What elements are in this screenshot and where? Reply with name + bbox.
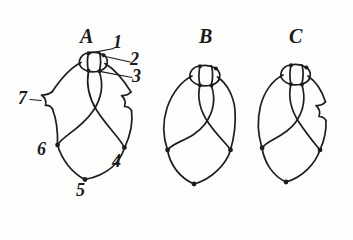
- panel-a-top-loop-bottom: [80, 65, 107, 72]
- panel-c-node-bottom: [284, 180, 289, 185]
- panel-b-node-mid-right: [209, 84, 213, 88]
- panel-c-loop-chord-left: [290, 65, 291, 84]
- panel-b-node-bottom-right: [228, 148, 233, 153]
- panel-a-node-6: [55, 143, 60, 148]
- panel-b-loop-chord-right: [211, 66, 212, 86]
- panel-a-node-4: [122, 145, 127, 150]
- panel-c-node-mid-left: [289, 82, 293, 86]
- panel-c-node-bottom-left: [260, 146, 265, 151]
- panel-b-strand-right-to-left: [168, 86, 214, 150]
- panel-letter-c: C: [289, 26, 302, 46]
- panel-c-node-bottom-right: [318, 148, 323, 153]
- panel-a-loop-chord-left: [87, 53, 88, 70]
- panel-b-outer-right: [218, 77, 236, 150]
- panel-b-lower-left-arc: [168, 150, 195, 184]
- panel-b-top-loop-bottom: [190, 78, 219, 86]
- panel-b-node-bottom-left: [165, 148, 170, 153]
- panel-a-left-notch: [42, 92, 53, 109]
- callout-label-5: 5: [76, 181, 85, 199]
- panel-c-strand-left-to-right: [290, 84, 320, 150]
- panel-b-node-bottom: [192, 182, 197, 187]
- callout-label-6: 6: [37, 140, 46, 158]
- callout-leader-2: [105, 57, 130, 63]
- panel-c-outer-right-lower: [320, 121, 326, 151]
- panel-b-node-mid-left: [198, 83, 202, 87]
- panel-a-lower-left-arc: [58, 145, 86, 180]
- panel-a-outer-left-upper: [52, 63, 81, 93]
- panel-c-drawing: [258, 63, 326, 184]
- panel-c-node-top-left: [289, 63, 293, 67]
- panel-b-top-loop-cap: [200, 65, 217, 68]
- panel-b-loop-chord-left: [199, 66, 200, 85]
- panel-a-strand-left-to-right: [88, 71, 124, 147]
- callout-label-7: 7: [18, 89, 27, 107]
- panel-b-node-top-left: [198, 64, 202, 68]
- panel-b-strand-left-to-right: [199, 85, 231, 150]
- panel-c-top-loop-bottom: [281, 77, 309, 85]
- panel-b-lower-right-arc: [194, 150, 231, 184]
- panel-letter-a: A: [80, 26, 93, 46]
- callout-label-3: 3: [132, 67, 141, 85]
- panel-letter-b: B: [199, 26, 212, 46]
- panel-c-strand-right-to-left: [262, 85, 304, 148]
- panel-a-outer-left-lower: [53, 109, 58, 145]
- callout-leader-7: [30, 100, 41, 101]
- panel-c-loop-chord-right: [302, 65, 303, 85]
- panel-c-node-top-right: [304, 66, 308, 70]
- panel-b-outer-left: [164, 76, 192, 150]
- panel-a-node-3: [87, 69, 91, 73]
- panel-a-outer-right-lower: [125, 111, 132, 149]
- panel-a-loop-chord-right: [99, 53, 100, 71]
- panel-c-lower-left-arc: [262, 148, 286, 182]
- panel-c-node-mid-right: [300, 83, 304, 87]
- panel-a-strand-right-to-left: [58, 71, 102, 145]
- panel-b-node-top-right: [214, 67, 218, 71]
- panel-a-right-notch: [122, 92, 132, 111]
- panel-c-lower-right-arc: [286, 150, 320, 182]
- panel-b-drawing: [164, 64, 235, 186]
- panel-a-outer-right-upper: [105, 64, 131, 93]
- panel-c-outer-right-upper: [308, 76, 326, 102]
- callout-label-4: 4: [112, 152, 121, 170]
- callout-leader-1: [90, 49, 114, 54]
- panel-c-right-notch: [316, 102, 326, 121]
- callout-label-1: 1: [113, 33, 122, 51]
